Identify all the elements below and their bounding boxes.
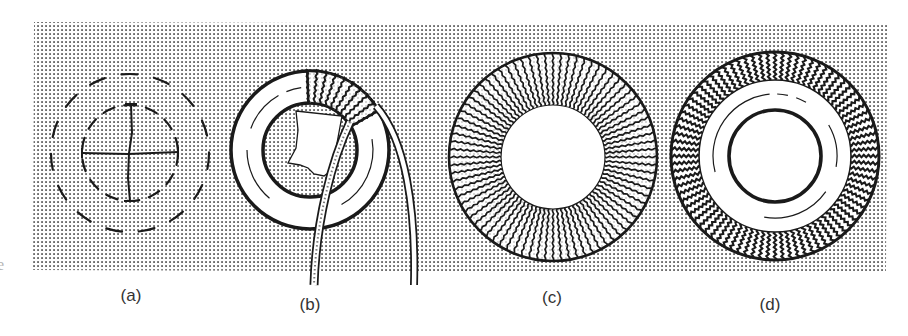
panel-label-a: (a) [121,286,142,306]
panel-label-c: (c) [542,288,562,308]
panel-label-b: (b) [300,295,321,315]
inner-black-circle [729,110,821,202]
panel-label-d: (d) [760,295,781,315]
panel-c-fully-wrapped-ring [449,53,657,261]
white-centre [501,105,605,209]
cropped-text-fragment: e [0,256,4,274]
panel-d-finished-ring [671,52,879,260]
